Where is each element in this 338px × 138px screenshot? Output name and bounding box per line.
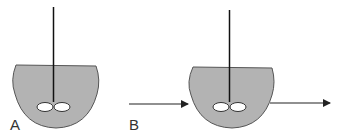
vessel-b bbox=[189, 67, 274, 128]
panel-a: A bbox=[10, 7, 99, 133]
impeller-blade-left-b bbox=[213, 103, 229, 112]
vessel-a bbox=[13, 65, 99, 128]
panel-b: B bbox=[129, 10, 330, 133]
impeller-blade-left-a bbox=[37, 103, 53, 112]
impeller-blade-right-a bbox=[54, 103, 70, 112]
label-b: B bbox=[129, 116, 139, 133]
reactor-diagram: A B bbox=[0, 0, 338, 138]
label-a: A bbox=[10, 116, 20, 133]
impeller-blade-right-b bbox=[230, 103, 246, 112]
